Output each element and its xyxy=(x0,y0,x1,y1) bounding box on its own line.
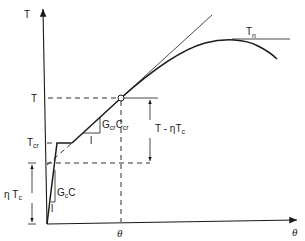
operating-point xyxy=(118,95,124,101)
uncracked-unit-run: l xyxy=(51,203,53,214)
tn-label: Tn xyxy=(246,26,256,39)
x-axis-label: θ xyxy=(292,226,298,238)
x-axis xyxy=(47,220,297,224)
y-axis-label: T xyxy=(24,9,30,20)
response-curve: Tn xyxy=(47,15,290,224)
cracked-unit-run: l xyxy=(90,135,92,146)
cracked-slope-label: GcrCcr xyxy=(102,119,129,131)
reference-lines xyxy=(47,98,158,222)
cracked-slope-triangle: l GcrCcr xyxy=(83,117,129,146)
upper-dim-label: T - ηTc xyxy=(155,123,185,135)
theta-marker-label: θ xyxy=(117,227,123,239)
eta-tc-label: η Tc xyxy=(4,189,22,201)
eta-tc-dimension xyxy=(28,163,36,224)
y-axis xyxy=(43,9,47,224)
tcr-label: Tcr xyxy=(27,137,40,149)
cracked-extension-dashed xyxy=(47,143,72,165)
uncracked-slope-label: GcC xyxy=(57,187,76,199)
torque-rotation-diagram: T θ Tn T Tcr η Tc θ xyxy=(0,0,305,241)
uncracked-slope-triangle: l GcC xyxy=(51,170,76,214)
tangent-line xyxy=(121,15,212,98)
left-labels: T Tcr η Tc θ xyxy=(4,93,123,239)
t-minus-eta-tc-dimension: T - ηTc xyxy=(150,100,185,161)
t-level-label: T xyxy=(31,93,37,104)
